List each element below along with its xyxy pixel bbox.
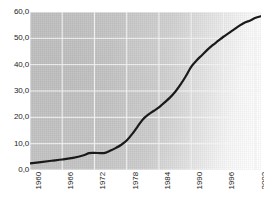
series-layer [30, 12, 261, 170]
x-axis: 19601966197219781984199019962002 [0, 170, 264, 207]
x-axis-tick-label: 2002 [260, 172, 264, 189]
y-axis-tick-label: 50,0 [1, 33, 29, 42]
series-line-value [30, 16, 261, 163]
y-axis-tick-label: 30,0 [1, 86, 29, 95]
y-axis-tick-label: 10,0 [1, 139, 29, 148]
x-axis-tick-label: 1984 [163, 172, 172, 189]
y-axis-tick-label: 60,0 [1, 7, 29, 16]
x-axis-tick-label: 1960 [34, 172, 43, 189]
x-axis-tick-label: 1966 [66, 172, 75, 189]
x-axis-tick-label: 1990 [195, 172, 204, 189]
line-chart: 0,010,020,030,040,050,060,0 196019661972… [0, 0, 264, 207]
y-axis-tick-label: 40,0 [1, 60, 29, 69]
x-axis-tick-label: 1972 [98, 172, 107, 189]
plot-area [30, 12, 261, 170]
y-axis-tick-label: 20,0 [1, 112, 29, 121]
x-axis-tick-label: 1978 [131, 172, 140, 189]
x-axis-tick-label: 1996 [227, 172, 236, 189]
